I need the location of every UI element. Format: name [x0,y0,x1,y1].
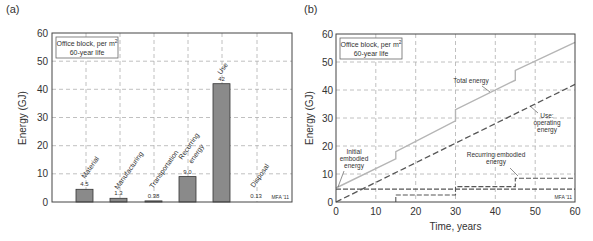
svg-text:42: 42 [218,76,225,82]
svg-text:40: 40 [37,84,49,95]
svg-text:4.5: 4.5 [80,181,89,187]
annotation-use-3: energy [537,126,558,134]
panel-b-ylabel: Energy (GJ) [304,91,315,145]
svg-text:1.3: 1.3 [114,190,123,196]
panel-a-value-labels: 4.5 1.3 0.38 9.0 42 0.13 [80,76,262,200]
svg-text:Manufacturing: Manufacturing [113,150,145,191]
panel-a-yticks: 0 10 20 30 40 50 60 [37,28,49,208]
panel-a-category-labels: Material Manufacturing Transportation Re… [80,61,271,191]
svg-text:10: 10 [322,169,334,180]
svg-text:50: 50 [37,56,49,67]
svg-text:40: 40 [322,85,334,96]
panel-a-credit: MFA '11 [271,194,289,200]
annotation-initial-1: Initial [346,148,362,155]
bar-recurring-energy [179,177,196,202]
arrow-recurring [510,168,518,176]
bar-manufacturing [110,198,127,202]
panel-b-credit: MFA '11 [554,194,572,200]
panel-b-xlabel: Time, years [430,221,482,232]
svg-text:30: 30 [322,113,334,124]
svg-text:10: 10 [370,206,382,217]
panel-a: (a) Office block, per m2 6 [6,3,292,208]
panel-a-ylabel: Energy (GJ) [17,91,28,145]
svg-text:50: 50 [530,206,542,217]
panel-a-label: (a) [6,3,19,15]
panel-b: (b) Office block, per m2 60-year life [304,3,581,232]
svg-text:60: 60 [569,206,581,217]
annotation-use-1: Use: [540,112,554,119]
svg-text:Transportation: Transportation [148,149,180,190]
svg-text:Disposal: Disposal [249,162,271,189]
panel-a-legend-line1: Office block, per m2 [56,38,117,48]
svg-text:0: 0 [333,206,339,217]
arrow-total-energy [482,86,490,92]
svg-text:0.13: 0.13 [250,193,262,199]
svg-text:20: 20 [410,206,422,217]
svg-text:60: 60 [37,28,49,39]
figure: (a) Office block, per m2 6 [0,0,593,241]
svg-text:0.38: 0.38 [148,193,160,199]
svg-text:10: 10 [37,168,49,179]
series-recurring-embodied [396,178,575,202]
svg-text:20: 20 [322,141,334,152]
panel-b-legend-line2: 60-year life [354,50,389,58]
annotation-recurring-2: energy [486,158,507,166]
panel-b-label: (b) [304,3,317,15]
svg-text:0: 0 [42,197,48,208]
panel-b-legend-line1: Office block, per m2 [340,39,401,49]
svg-text:30: 30 [37,112,49,123]
panel-b-yticks: 0 10 20 30 40 50 60 [322,29,334,208]
bar-use [213,84,230,202]
svg-text:40: 40 [490,206,502,217]
panel-a-legend-line2: 60-year life [70,49,105,57]
svg-text:60: 60 [322,29,334,40]
panel-b-xticks: 0 10 20 30 40 50 60 [333,206,581,217]
svg-text:9.0: 9.0 [183,169,192,175]
bar-material [76,189,93,202]
svg-text:Use: Use [216,61,229,75]
annotation-total-energy: Total energy [453,77,489,85]
svg-text:50: 50 [322,57,334,68]
svg-text:20: 20 [37,140,49,151]
svg-text:Material: Material [80,155,100,180]
arrow-use [530,106,538,113]
annotation-initial-3: energy [344,162,365,170]
svg-text:30: 30 [450,206,462,217]
annotation-initial-2: embodied [340,155,369,162]
